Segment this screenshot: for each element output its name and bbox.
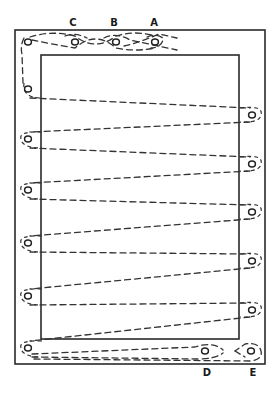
eyelet	[25, 39, 32, 45]
lace-segment	[30, 252, 250, 254]
lace-segment	[32, 353, 223, 359]
eyelet	[25, 187, 32, 193]
lace-segment	[235, 351, 245, 357]
lace-segment	[30, 268, 250, 289]
eyelet	[25, 86, 32, 92]
lace-segment	[21, 38, 24, 83]
outer-frame	[15, 30, 265, 364]
lace-segment	[30, 303, 250, 305]
lace-segment	[30, 317, 250, 341]
lace-segment	[30, 219, 250, 236]
point-labels: CBADE	[69, 17, 256, 378]
lacing-diagram: CBADE	[0, 0, 279, 395]
eyelet	[249, 112, 256, 118]
label-d: D	[203, 367, 211, 378]
eyelet	[25, 136, 32, 142]
label-c: C	[69, 17, 76, 28]
eyelets	[25, 39, 256, 354]
lace-segment	[32, 345, 223, 354]
label-e: E	[250, 367, 257, 378]
lace-segment	[65, 34, 87, 38]
label-a: A	[150, 17, 158, 28]
lace-segment	[30, 199, 250, 205]
eyelet	[25, 240, 32, 246]
eyelet-b	[113, 39, 120, 45]
inner-frame	[41, 55, 239, 339]
eyelet	[25, 345, 32, 351]
eyelet-d	[202, 348, 209, 354]
eyelet-e	[248, 348, 255, 354]
eyelet	[249, 161, 256, 167]
lace-segment	[30, 171, 250, 183]
eyelet	[249, 258, 256, 264]
eyelet	[25, 293, 32, 299]
lace-segment	[30, 148, 250, 157]
eyelet	[249, 209, 256, 215]
lace-segment	[30, 122, 250, 132]
eyelet-c	[72, 39, 79, 45]
lace-segment	[30, 98, 250, 108]
eyelet	[249, 307, 256, 313]
label-b: B	[110, 17, 118, 28]
eyelet-a	[152, 39, 159, 45]
lace-paths	[21, 33, 262, 361]
